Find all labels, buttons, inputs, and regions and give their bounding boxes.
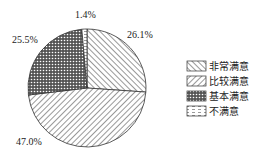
legend-label-jiben: 基本满意 xyxy=(209,90,249,102)
legend-swatch-feichang xyxy=(187,61,206,71)
label-bijiao: 47.0% xyxy=(16,136,42,147)
legend-label-bumanyi: 不满意 xyxy=(209,105,239,117)
label-jiben: 25.5% xyxy=(12,34,38,45)
label-bumanyi: 1.4% xyxy=(75,9,96,20)
legend-label-bijiao: 比较满意 xyxy=(209,75,249,87)
legend-swatch-jiben xyxy=(187,91,206,101)
legend-label-feichang: 非常满意 xyxy=(209,60,249,72)
legend-swatch-bumanyi xyxy=(187,106,206,116)
label-feichang: 26.1% xyxy=(127,29,153,40)
legend-swatch-bijiao xyxy=(187,76,206,86)
slice-bijiao xyxy=(28,88,145,147)
pie-chart: 1.4% 26.1% 25.5% 47.0% 非常满意 比较满意 基本满意 不满… xyxy=(0,0,259,159)
pie-slices xyxy=(28,29,146,147)
legend: 非常满意 比较满意 基本满意 不满意 xyxy=(187,60,249,117)
